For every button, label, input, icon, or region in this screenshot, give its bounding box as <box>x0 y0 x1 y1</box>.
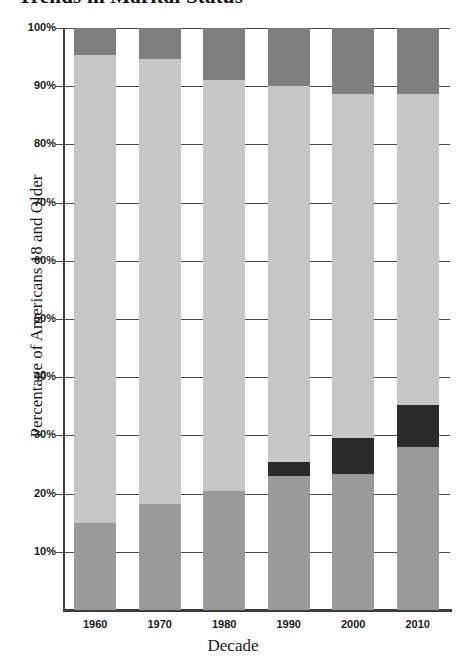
bar-segment-2000-segment-4-top[interactable] <box>332 28 374 94</box>
bar-group-1980[interactable] <box>203 28 245 610</box>
y-tick-mark <box>56 86 63 87</box>
gridline-50 <box>63 319 450 320</box>
bar-segment-1970-segment-1-bottom[interactable] <box>139 504 181 610</box>
gridline-70 <box>63 203 450 204</box>
bar-segment-1990-segment-1-bottom[interactable] <box>268 476 310 610</box>
bar-segment-2010-segment-1-bottom[interactable] <box>397 447 439 610</box>
x-tick-label-2010: 2010 <box>386 618 451 630</box>
bar-group-2010[interactable] <box>397 28 439 610</box>
x-tick-label-1960: 1960 <box>63 618 128 630</box>
bar-segment-2010-segment-3-light[interactable] <box>397 94 439 405</box>
gridline-100 <box>63 28 450 29</box>
gridline-60 <box>63 261 450 262</box>
x-tick-label-1990: 1990 <box>257 618 322 630</box>
gridline-30 <box>63 435 450 436</box>
bar-segment-1990-segment-4-top[interactable] <box>268 28 310 86</box>
bar-segment-2000-segment-1-bottom[interactable] <box>332 474 374 610</box>
bar-group-1970[interactable] <box>139 28 181 610</box>
bar-segment-1960-segment-4-top[interactable] <box>74 28 116 55</box>
y-tick-label: 70% <box>6 196 56 208</box>
x-axis-title: Decade <box>0 636 466 656</box>
y-tick-mark <box>56 261 63 262</box>
y-tick-label: 30% <box>6 428 56 440</box>
y-tick-mark <box>56 552 63 553</box>
y-tick-label: 20% <box>6 487 56 499</box>
x-tick-label-1970: 1970 <box>128 618 193 630</box>
bar-segment-1980-segment-4-top[interactable] <box>203 28 245 80</box>
bar-segment-2000-segment-3-light[interactable] <box>332 94 374 438</box>
bar-segment-1960-segment-1-bottom[interactable] <box>74 523 116 610</box>
y-tick-mark <box>56 377 63 378</box>
bar-segment-1980-segment-1-bottom[interactable] <box>203 491 245 610</box>
gridline-90 <box>63 86 450 87</box>
y-tick-label: 60% <box>6 254 56 266</box>
bar-segment-1960-segment-3-light[interactable] <box>74 55 116 523</box>
gridline-10 <box>63 552 450 553</box>
y-tick-label: 100% <box>6 21 56 33</box>
bar-group-1960[interactable] <box>74 28 116 610</box>
gridline-20 <box>63 494 450 495</box>
chart-container: Trends in Marital Status Percentage of A… <box>0 0 466 668</box>
plot-area <box>63 28 450 610</box>
y-tick-label: 10% <box>6 545 56 557</box>
y-tick-label: 90% <box>6 79 56 91</box>
y-tick-mark <box>56 435 63 436</box>
y-tick-label: 80% <box>6 137 56 149</box>
bar-segment-1990-segment-3-light[interactable] <box>268 86 310 462</box>
bar-segment-2000-segment-2-black[interactable] <box>332 438 374 474</box>
y-tick-label: 50% <box>6 312 56 324</box>
x-tick-label-1980: 1980 <box>192 618 257 630</box>
y-tick-label: 40% <box>6 370 56 382</box>
bar-segment-2010-segment-2-black[interactable] <box>397 405 439 447</box>
bar-segment-2010-segment-4-top[interactable] <box>397 28 439 94</box>
gridline-40 <box>63 377 450 378</box>
bar-segment-1980-segment-3-light[interactable] <box>203 80 245 490</box>
y-tick-mark <box>56 203 63 204</box>
chart-title: Trends in Marital Status <box>18 0 458 9</box>
y-tick-mark <box>56 28 63 29</box>
y-tick-mark <box>56 319 63 320</box>
bar-group-2000[interactable] <box>332 28 374 610</box>
bar-segment-1990-segment-2-black[interactable] <box>268 462 310 476</box>
y-tick-mark <box>56 494 63 495</box>
gridline-80 <box>63 144 450 145</box>
x-tick-label-2000: 2000 <box>321 618 386 630</box>
y-tick-mark <box>56 144 63 145</box>
bar-group-1990[interactable] <box>268 28 310 610</box>
bar-segment-1970-segment-4-top[interactable] <box>139 28 181 59</box>
bar-segment-1970-segment-3-light[interactable] <box>139 59 181 504</box>
